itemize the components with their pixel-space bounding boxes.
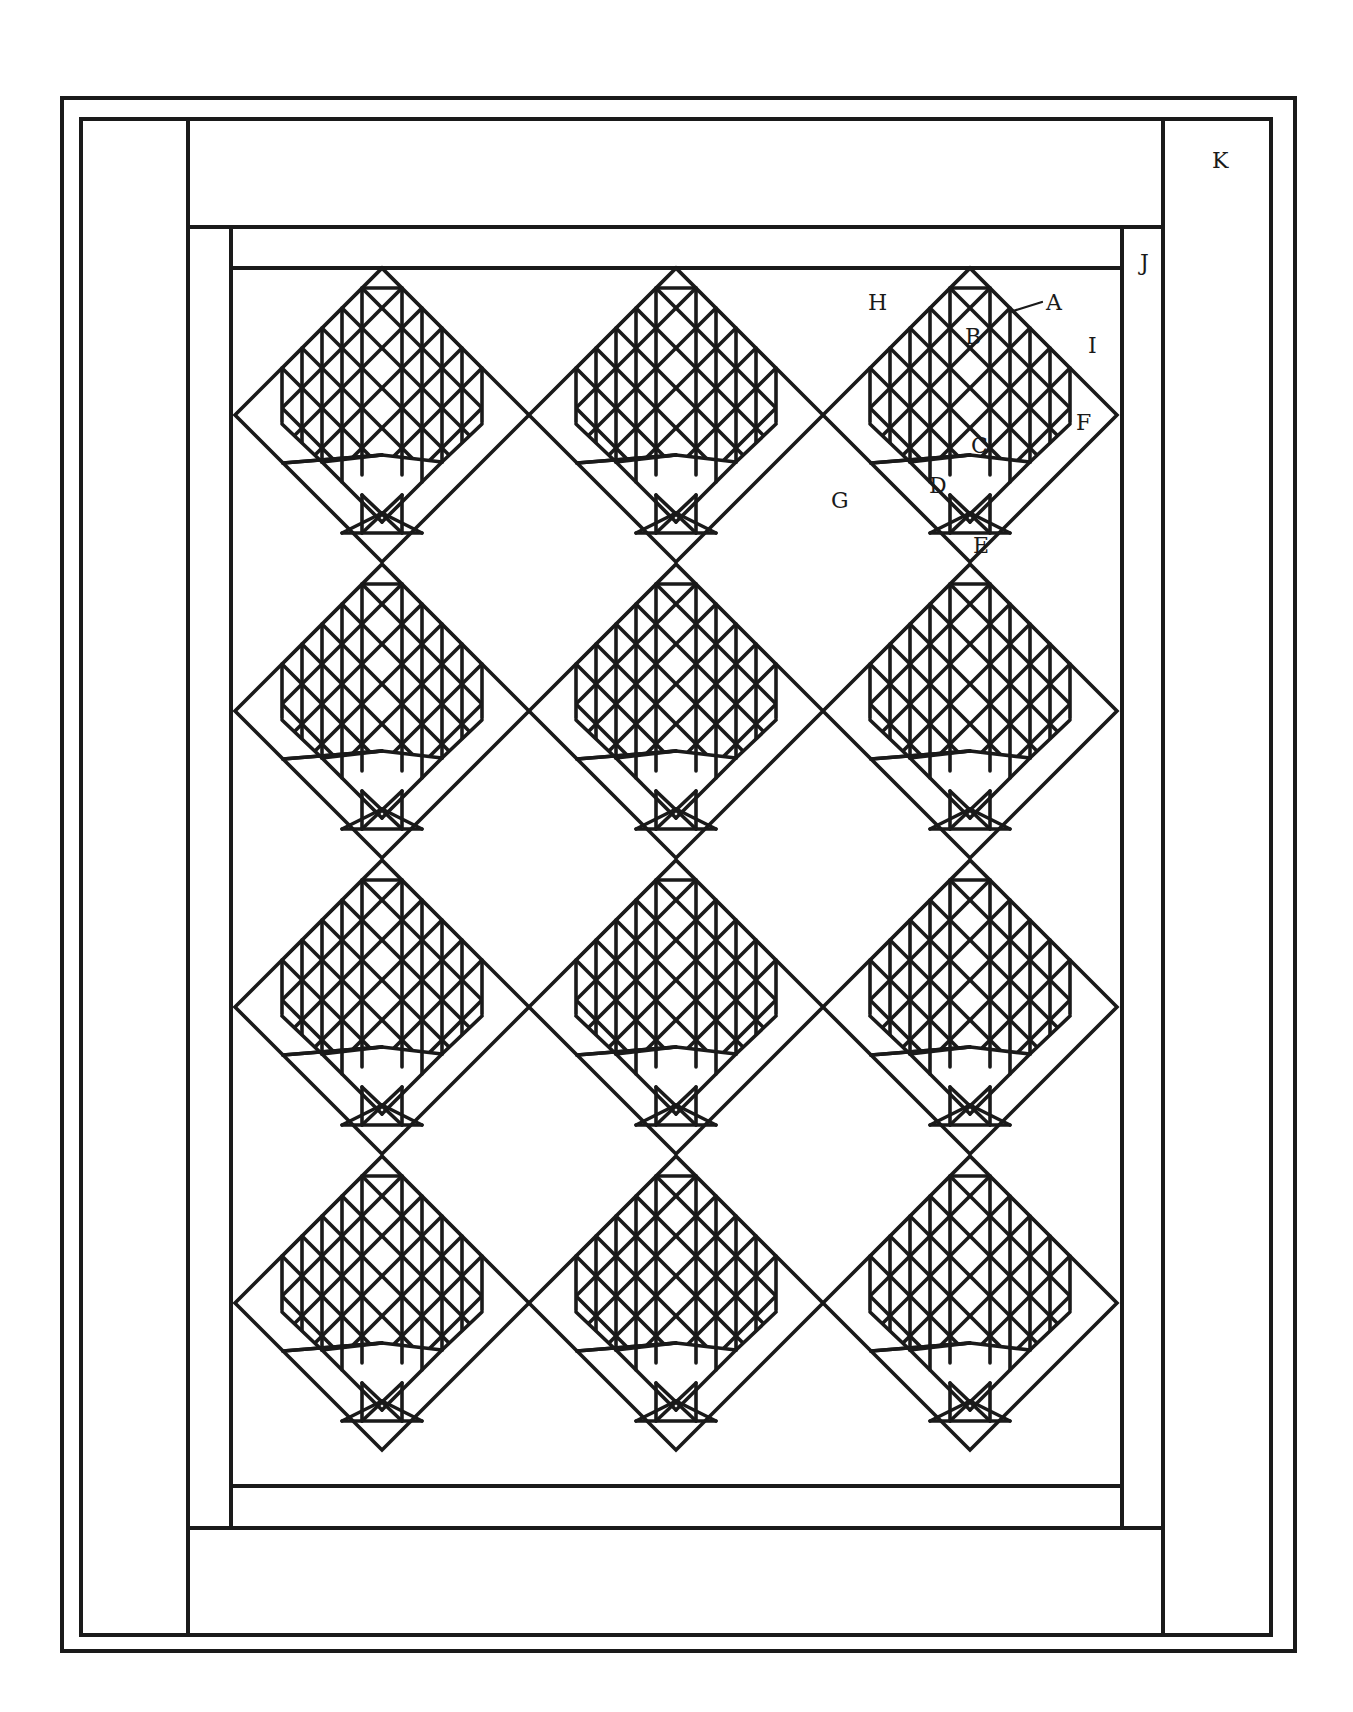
label-d: D bbox=[929, 473, 947, 498]
pine-tree-block bbox=[222, 796, 542, 1596]
label-a-leader-line bbox=[1010, 302, 1042, 312]
label-a: A bbox=[1045, 290, 1063, 315]
quilt-diagram: A B C D E F G H I J K bbox=[0, 0, 1353, 1712]
label-h: H bbox=[868, 290, 887, 315]
pine-tree-blocks bbox=[222, 0, 1130, 1596]
label-k: K bbox=[1212, 148, 1229, 173]
label-g: G bbox=[831, 488, 849, 513]
label-i: I bbox=[1088, 333, 1097, 358]
pine-tree-block bbox=[516, 204, 836, 1004]
label-c: C bbox=[971, 433, 988, 458]
pine-tree-block bbox=[516, 796, 836, 1596]
pine-tree-block bbox=[222, 500, 542, 1300]
border-frames bbox=[62, 98, 1295, 1651]
label-b: B bbox=[965, 324, 981, 349]
label-e: E bbox=[973, 533, 989, 558]
pine-tree-block bbox=[222, 204, 542, 1004]
pine-tree-block bbox=[810, 500, 1130, 1300]
label-j: J bbox=[1138, 250, 1149, 275]
outer-frame bbox=[62, 98, 1295, 1651]
pine-tree-block bbox=[516, 500, 836, 1300]
label-f: F bbox=[1076, 410, 1091, 435]
pine-tree-block bbox=[810, 796, 1130, 1596]
